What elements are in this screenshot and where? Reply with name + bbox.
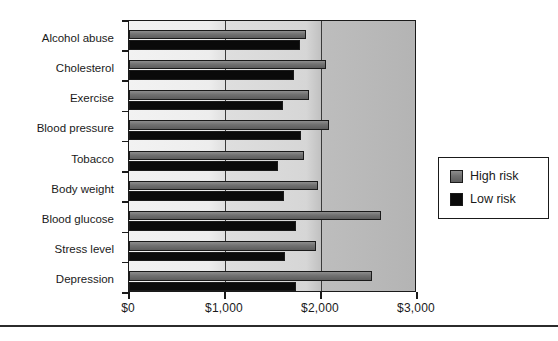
y-axis-label-body-weight: Body weight <box>51 183 114 196</box>
legend-label: Low risk <box>470 192 516 206</box>
x-axis-tick <box>416 292 418 299</box>
y-axis-tick <box>122 141 128 143</box>
figure-bottom-rule <box>0 325 558 327</box>
y-axis-tick <box>122 232 128 234</box>
y-axis-tick <box>122 50 128 52</box>
bar-high-risk <box>129 241 316 251</box>
chart-figure: Alcohol abuseCholesterolExerciseBlood pr… <box>0 0 558 341</box>
x-axis-tick <box>224 292 226 299</box>
y-axis-label-stress-level: Stress level <box>55 243 114 256</box>
y-axis-label-depression: Depression <box>56 273 114 286</box>
y-axis-label-tobacco: Tobacco <box>71 153 114 166</box>
legend-swatch-high-risk-icon <box>450 170 463 183</box>
plot-area <box>128 20 416 292</box>
y-axis-category-labels: Alcohol abuseCholesterolExerciseBlood pr… <box>0 20 122 292</box>
chart-legend: High riskLow risk <box>438 157 549 219</box>
bar-low-risk <box>129 131 301 141</box>
bar-low-risk <box>129 40 300 50</box>
y-axis-label-blood-glucose: Blood glucose <box>42 213 114 226</box>
x-axis-label-3000: $3,000 <box>397 301 435 315</box>
bar-low-risk <box>129 282 296 292</box>
bar-high-risk <box>129 90 309 100</box>
bar-low-risk <box>129 101 283 111</box>
bar-high-risk <box>129 271 372 281</box>
y-axis-tick <box>122 111 128 113</box>
y-axis-tick <box>122 20 128 22</box>
bar-high-risk <box>129 30 306 40</box>
bar-high-risk <box>129 151 304 161</box>
x-axis-label-1000: $1,000 <box>205 301 243 315</box>
bar-high-risk <box>129 120 329 130</box>
legend-swatch-low-risk-icon <box>450 193 463 206</box>
legend-item-low-risk[interactable]: Low risk <box>450 192 516 206</box>
bar-low-risk <box>129 161 278 171</box>
bar-groups <box>129 21 415 291</box>
bar-low-risk <box>129 70 294 80</box>
bar-high-risk <box>129 60 326 70</box>
bar-low-risk <box>129 221 296 231</box>
y-axis-label-alcohol-abuse: Alcohol abuse <box>42 32 114 45</box>
x-axis-label-0: $0 <box>121 301 135 315</box>
bar-low-risk <box>129 252 285 262</box>
y-axis-label-cholesterol: Cholesterol <box>56 62 114 75</box>
bar-high-risk <box>129 211 381 221</box>
x-axis-tick <box>320 292 322 299</box>
bar-low-risk <box>129 191 284 201</box>
x-axis-label-2000: $2,000 <box>301 301 339 315</box>
legend-item-high-risk[interactable]: High risk <box>450 169 519 183</box>
x-axis-tick <box>128 292 130 299</box>
y-axis-label-exercise: Exercise <box>70 92 114 105</box>
bar-high-risk <box>129 181 318 191</box>
legend-label: High risk <box>470 169 519 183</box>
y-axis-tick <box>122 171 128 173</box>
y-axis-label-blood-pressure: Blood pressure <box>37 122 114 135</box>
y-axis-tick <box>122 80 128 82</box>
y-axis-tick <box>122 201 128 203</box>
y-axis-tick <box>122 262 128 264</box>
